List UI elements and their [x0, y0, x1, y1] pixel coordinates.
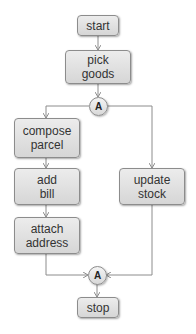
node-add-bill: add bill: [14, 168, 80, 205]
node-pick-goods: pick goods: [65, 50, 131, 84]
node-stop: stop: [77, 297, 119, 318]
node-compose-parcel: compose parcel: [14, 118, 80, 158]
node-update-stock: update stock: [119, 168, 185, 205]
node-attach-address: attach address: [14, 217, 80, 254]
connector-fork-a: A: [89, 97, 108, 116]
node-start: start: [77, 15, 119, 36]
connector-join-a: A: [88, 266, 107, 285]
